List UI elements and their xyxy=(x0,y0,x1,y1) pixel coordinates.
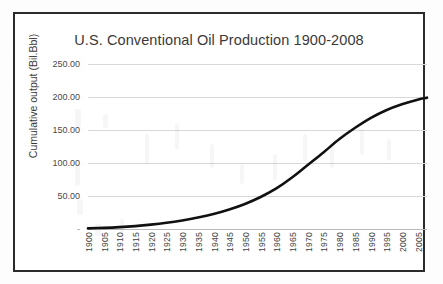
x-tick-label-1970: 1970 xyxy=(304,232,314,252)
scan-artifact xyxy=(75,164,80,186)
x-tick-label-1920: 1920 xyxy=(147,232,157,252)
scan-artifact xyxy=(120,219,124,233)
gridline-0 xyxy=(88,229,427,230)
series-line-oil-production xyxy=(88,64,427,229)
scan-artifact xyxy=(360,129,364,155)
scan-artifact xyxy=(103,114,108,128)
scan-artifact xyxy=(175,124,179,150)
y-tick-label-250: 250.00 xyxy=(52,59,80,69)
x-tick-label-1995: 1995 xyxy=(382,232,392,252)
x-tick-label-1940: 1940 xyxy=(210,232,220,252)
x-tick-label-1930: 1930 xyxy=(178,232,188,252)
y-tick-label-0: - xyxy=(77,224,80,234)
x-tick-label-1905: 1905 xyxy=(100,232,110,252)
x-tick-label-1975: 1975 xyxy=(319,232,329,252)
x-tick-label-2000: 2000 xyxy=(398,232,408,252)
series-path xyxy=(88,98,427,229)
x-tick-label-1960: 1960 xyxy=(272,232,282,252)
x-tick-label-2005: 2005 xyxy=(414,232,424,252)
scan-artifact xyxy=(303,134,307,162)
x-tick-label-1900: 1900 xyxy=(84,232,94,252)
y-tick-label-200: 200.00 xyxy=(52,92,80,102)
x-axis-tick-labels: 1900190519101915192019251930193519401945… xyxy=(88,232,427,282)
x-tick-label-1925: 1925 xyxy=(162,232,172,252)
x-tick-label-1945: 1945 xyxy=(225,232,235,252)
scan-artifact xyxy=(77,199,83,215)
x-tick-label-1910: 1910 xyxy=(115,232,125,252)
plot-area xyxy=(88,64,427,229)
x-tick-label-1990: 1990 xyxy=(367,232,377,252)
x-tick-label-1935: 1935 xyxy=(194,232,204,252)
scan-artifact xyxy=(240,164,244,184)
screenshot-canvas: U.S. Conventional Oil Production 1900-20… xyxy=(0,0,443,284)
y-axis-tick-labels: 250.00200.00150.00100.0050.00- xyxy=(15,64,85,229)
scan-artifact xyxy=(75,109,81,127)
x-tick-label-1965: 1965 xyxy=(288,232,298,252)
x-tick-label-1950: 1950 xyxy=(241,232,251,252)
chart-figure: U.S. Conventional Oil Production 1900-20… xyxy=(13,12,425,272)
x-tick-label-1955: 1955 xyxy=(257,232,267,252)
scan-artifact xyxy=(95,224,101,236)
scan-artifact xyxy=(273,154,277,180)
chart-title: U.S. Conventional Oil Production 1900-20… xyxy=(15,32,423,48)
x-tick-label-1985: 1985 xyxy=(351,232,361,252)
scan-artifact xyxy=(210,144,214,168)
x-tick-label-1980: 1980 xyxy=(335,232,345,252)
scan-artifact xyxy=(387,139,391,161)
scan-artifact xyxy=(145,134,149,164)
x-tick-label-1915: 1915 xyxy=(131,232,141,252)
scan-artifact xyxy=(330,144,334,168)
